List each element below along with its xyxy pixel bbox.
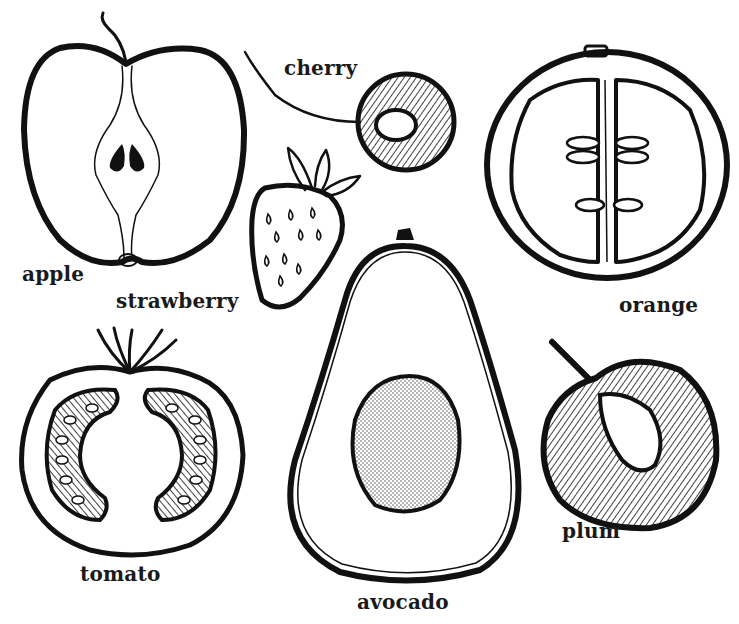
label-apple: apple bbox=[22, 262, 84, 286]
strawberry-illustration bbox=[252, 148, 360, 307]
plum-illustration bbox=[544, 340, 717, 528]
apple-illustration bbox=[24, 13, 244, 266]
label-cherry: cherry bbox=[284, 56, 357, 80]
label-tomato: tomato bbox=[80, 562, 160, 586]
label-avocado: avocado bbox=[357, 590, 449, 614]
avocado-illustration bbox=[290, 228, 518, 581]
label-strawberry: strawberry bbox=[116, 289, 239, 313]
orange-illustration bbox=[487, 46, 727, 278]
label-orange: orange bbox=[619, 293, 698, 317]
label-plum: plum bbox=[562, 519, 620, 543]
tomato-illustration bbox=[22, 328, 243, 555]
